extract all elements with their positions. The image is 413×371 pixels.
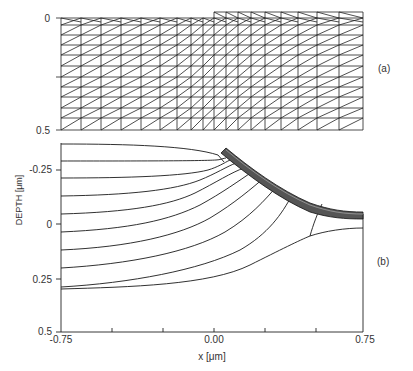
contour-10 [61,228,363,289]
x-axis-label: x [μm] [198,351,226,362]
panel-a-label: (a) [378,63,390,74]
mesh-panel [61,12,363,130]
y-tick-0: 0 [46,219,52,230]
contour-lines [61,144,363,289]
mesh-y-tick-0: 0 [44,13,50,24]
contour-4 [61,163,236,196]
contour-3 [61,160,230,178]
contour-plot [56,143,363,332]
x-tick-0-75: 0.75 [355,334,375,345]
y-tick-0-25: 0.25 [33,274,53,285]
contour-2 [61,158,226,161]
contour-1 [61,144,224,162]
plot-axes [56,143,363,332]
contour-6 [61,172,252,232]
panel-b-label: (b) [377,256,389,267]
x-tick-neg-0-75: -0.75 [50,334,73,345]
mesh-y-axis [56,18,61,130]
oxide-layer [221,148,363,219]
mesh-y-tick-0-5: 0.5 [36,125,50,136]
contour-8 [61,186,277,268]
y-axis-label: DEPTH [μm] [14,175,24,226]
contour-9 [61,195,292,287]
y-tick-neg-0-25: -0.25 [29,164,52,175]
x-tick-0: 0.00 [204,334,224,345]
figure: 0 0.5 (a) [0,0,413,371]
